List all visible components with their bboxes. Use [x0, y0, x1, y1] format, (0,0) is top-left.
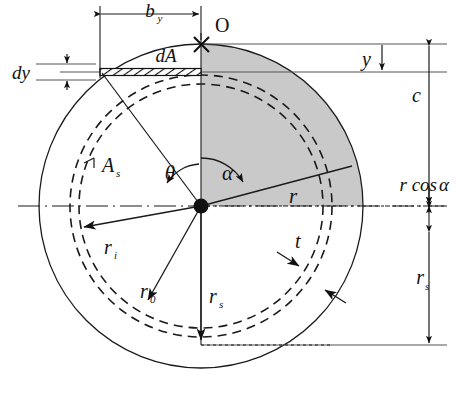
figure-container: b y dy O dA y c	[0, 0, 462, 403]
rs-center-label: r	[209, 285, 217, 307]
ri-arrow	[84, 206, 201, 227]
As-annotation: A s	[84, 154, 120, 179]
center-point	[194, 199, 209, 214]
rs-right-dimension: r s	[416, 232, 429, 343]
theta-ray-to-strip	[102, 73, 201, 206]
c-label: c	[412, 84, 421, 106]
rcosalpha-symbol: α	[439, 174, 450, 195]
by-label-subscript: y	[157, 12, 163, 24]
rs-right-label: r	[416, 266, 424, 288]
origin-label: O	[215, 14, 229, 36]
rs-right-subscript: s	[425, 280, 429, 292]
by-dimension: b y	[100, 0, 201, 78]
rcosalpha-label: r cos	[400, 174, 437, 195]
cross-section-diagram: b y dy O dA y c	[0, 0, 462, 403]
r0-subscript: 0	[150, 293, 156, 305]
r0-dimension: r 0	[140, 206, 201, 305]
As-subscript: s	[116, 167, 120, 179]
rs-center-dimension: r s	[201, 210, 223, 340]
differential-area-strip	[100, 69, 201, 76]
ri-label: r	[104, 236, 112, 258]
alpha-label: α	[222, 161, 234, 185]
rcosalpha-dimension: r cos α	[400, 174, 450, 226]
t-arrow-outer	[325, 290, 346, 303]
rs-center-subscript: s	[219, 298, 223, 310]
dA-label: dA	[155, 45, 177, 66]
dy-label: dy	[12, 62, 31, 83]
radius-r-label: r	[289, 184, 298, 208]
r0-label: r	[140, 280, 148, 302]
y-label: y	[360, 48, 371, 71]
by-label: b	[145, 0, 155, 21]
y-dimension: y	[360, 45, 382, 71]
t-label: t	[295, 230, 301, 252]
As-label: A	[100, 154, 115, 176]
t-arrow-inner	[277, 252, 299, 266]
ri-subscript: i	[114, 249, 117, 261]
ri-dimension: r i	[84, 206, 201, 261]
r0-arrow	[148, 206, 201, 300]
